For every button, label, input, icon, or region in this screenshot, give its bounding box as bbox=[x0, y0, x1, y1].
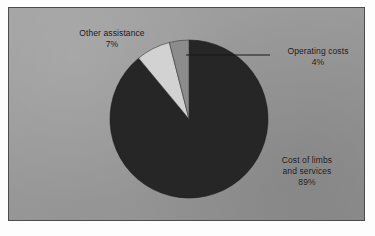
slice-label-other-assistance-text: Other assistance bbox=[79, 28, 144, 38]
slice-label-operating-costs-value: 4% bbox=[272, 57, 364, 68]
slice-label-cost-line-2: and services bbox=[258, 166, 356, 177]
slice-label-cost-of-limbs-and-services: Cost of limbs and services 89% bbox=[258, 155, 356, 188]
slice-label-cost-line-1: Cost of limbs bbox=[282, 155, 332, 165]
slice-label-cost-value: 89% bbox=[258, 177, 356, 188]
slice-label-other-assistance: Other assistance 7% bbox=[60, 28, 164, 50]
slice-label-other-assistance-value: 7% bbox=[60, 39, 164, 50]
pie-chart-svg bbox=[0, 0, 375, 236]
slice-label-operating-costs: Operating costs 4% bbox=[272, 46, 364, 68]
pie-chart-figure: Other assistance 7% Operating costs 4% C… bbox=[0, 0, 375, 236]
slice-label-operating-costs-text: Operating costs bbox=[287, 46, 348, 56]
